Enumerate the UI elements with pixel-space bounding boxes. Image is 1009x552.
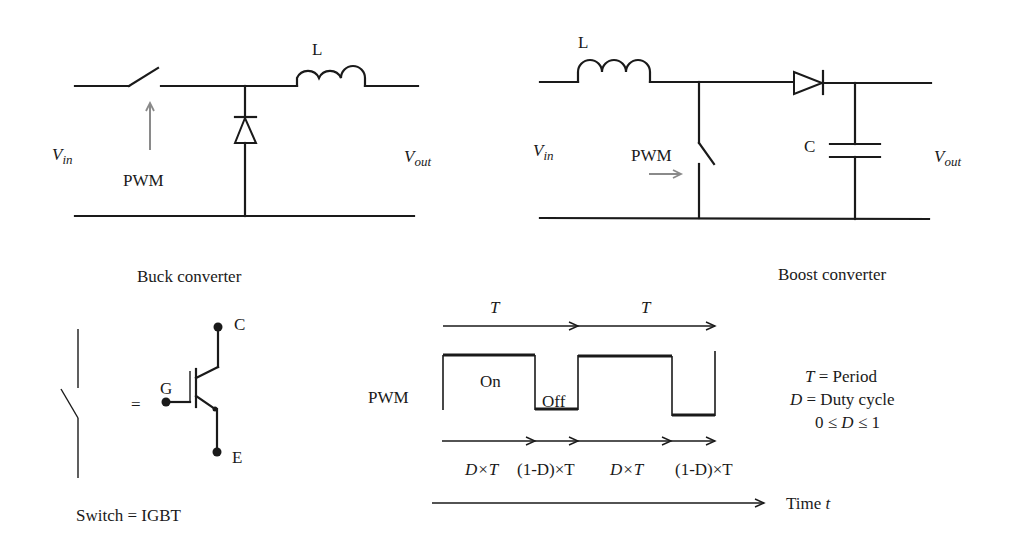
buck-vout-label: Vout	[404, 147, 431, 169]
igbt-caption: Switch = IGBT	[76, 506, 182, 525]
pwm-signal-label: PWM	[368, 388, 409, 407]
boost-inductor-label: L	[578, 33, 588, 52]
igbt-equivalence: = G C E Switch = IGBT	[61, 315, 245, 525]
boost-converter: L C Vin Vout PWM Boost converter	[533, 33, 961, 284]
buck-converter: L Vin Vout PWM Buck converter	[52, 40, 431, 286]
pwm-timing-diagram: T T PWM On Off D×T (1-D)×T D×T (1-D)×T T…	[368, 298, 894, 513]
buck-diode	[235, 118, 256, 143]
on-label: On	[480, 372, 501, 391]
period-label-2: T	[641, 298, 652, 317]
equals-sign: =	[131, 395, 141, 414]
switch-symbol-blade	[61, 389, 78, 418]
interval-label-2: (1-D)×T	[517, 460, 575, 479]
buck-switch	[129, 68, 158, 86]
buck-inductor	[297, 66, 365, 86]
igbt-collector-label: C	[234, 315, 245, 334]
boost-vout-label: Vout	[934, 147, 961, 169]
igbt-gate-label: G	[160, 379, 172, 398]
off-label: Off	[542, 392, 566, 411]
boost-switch	[699, 143, 714, 164]
buck-inductor-label: L	[312, 40, 322, 59]
boost-ground-wire	[540, 218, 929, 219]
boost-title: Boost converter	[778, 265, 886, 284]
boost-capacitor-label: C	[804, 137, 815, 156]
igbt-emitter-label: E	[232, 448, 242, 467]
buck-pwm-label: PWM	[123, 171, 164, 190]
legend-duty-cycle: D = Duty cycle	[789, 390, 894, 409]
legend-period: T = Period	[805, 367, 877, 386]
time-axis-label: Time t	[786, 494, 832, 513]
period-label-1: T	[490, 298, 501, 317]
interval-label-4: (1-D)×T	[675, 460, 733, 479]
boost-vin-label: Vin	[533, 141, 554, 163]
converter-diagram: L Vin Vout PWM Buck converter L C Vin Vo…	[0, 0, 1009, 552]
legend-duty-range: 0 ≤ D ≤ 1	[815, 413, 880, 432]
buck-title: Buck converter	[137, 267, 242, 286]
interval-label-1: D×T	[464, 460, 500, 479]
boost-pwm-label: PWM	[631, 146, 672, 165]
buck-vin-label: Vin	[52, 145, 73, 167]
boost-inductor	[578, 60, 650, 82]
pwm-legend: T = Period D = Duty cycle 0 ≤ D ≤ 1	[789, 367, 894, 432]
interval-label-3: D×T	[609, 460, 645, 479]
boost-diode	[794, 72, 822, 94]
